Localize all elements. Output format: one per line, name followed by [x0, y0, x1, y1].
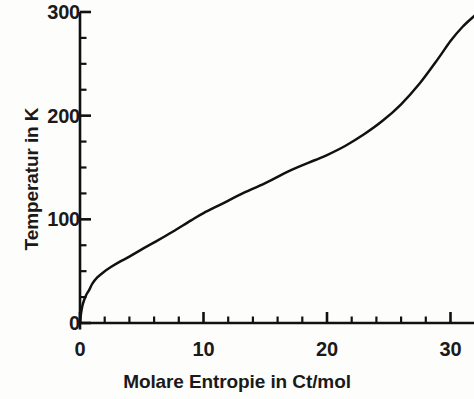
y-axis-title: Temperatur in K: [21, 69, 43, 289]
axis-lines: [80, 12, 474, 323]
x-tick-label-20: 20: [316, 338, 338, 361]
y-tick-label-0: 0: [69, 312, 80, 335]
data-series-line: [80, 15, 474, 323]
y-tick-label-200: 200: [47, 104, 80, 127]
y-tick-label-100: 100: [47, 208, 80, 231]
x-tick-label-10: 10: [193, 338, 215, 361]
plot-canvas: [0, 0, 474, 399]
y-tick-label-300: 300: [47, 1, 80, 24]
x-tick-label-30: 30: [440, 338, 462, 361]
x-tick-label-0: 0: [75, 338, 86, 361]
x-axis-ticks: [80, 312, 451, 330]
y-axis-ticks: [80, 12, 91, 323]
x-axis-title: Molare Entropie in Ct/mol: [0, 371, 474, 393]
chart-figure: 300 200 100 0 0 10 20 30 Molare Entropie…: [0, 0, 474, 399]
